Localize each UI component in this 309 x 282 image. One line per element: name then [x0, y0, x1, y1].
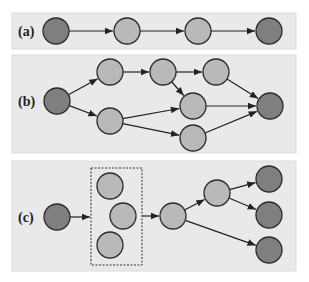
light-node-c6: [204, 180, 230, 206]
light-node-b6: [180, 93, 206, 119]
panel-a-label: (a): [18, 24, 35, 40]
graph-figure: (a) (b) (c): [0, 0, 309, 282]
light-node-a2: [114, 18, 140, 44]
light-node-b5: [203, 59, 229, 85]
light-node-b4: [150, 59, 176, 85]
light-node-c2: [97, 173, 123, 199]
light-node-c5: [160, 203, 186, 229]
dark-node-c1: [44, 204, 70, 230]
light-node-b7: [180, 125, 206, 151]
dark-node-a1: [43, 18, 69, 44]
panel-b-label: (b): [18, 94, 35, 110]
dark-node-b8: [257, 93, 283, 119]
dark-node-c7: [256, 166, 282, 192]
dark-node-b1: [44, 88, 70, 114]
light-node-a3: [185, 18, 211, 44]
light-node-c3: [110, 203, 136, 229]
dark-node-a4: [256, 18, 282, 44]
light-node-c4: [97, 232, 123, 258]
light-node-b3: [97, 108, 123, 134]
dark-node-c9: [256, 237, 282, 263]
dark-node-c8: [256, 202, 282, 228]
light-node-b2: [97, 59, 123, 85]
panel-c-label: (c): [18, 210, 34, 226]
